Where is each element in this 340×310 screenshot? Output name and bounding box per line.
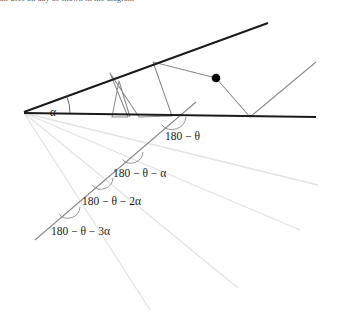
angle-arc-0 <box>162 117 187 130</box>
upper-wedge-line <box>24 23 268 112</box>
figure-root: an uses on day as shown in the diagram α… <box>0 0 340 310</box>
angle-arc-3 <box>59 207 80 218</box>
alpha-label: α <box>50 106 57 118</box>
fan-ray-4 <box>24 113 150 310</box>
marked-point-dot <box>212 74 221 83</box>
angle-label-1: 180 − θ − α <box>113 167 166 179</box>
angle-label-0: 180 − θ <box>165 130 200 142</box>
angle-label-2: 180 − θ − 2α <box>82 195 141 207</box>
alpha-angle-arc <box>67 96 70 113</box>
billiard-wedge-diagram: α 180 − θ 180 − θ − α 180 − θ − 2α 180 −… <box>0 0 340 310</box>
angle-label-3: 180 − θ − 3α <box>51 225 110 237</box>
